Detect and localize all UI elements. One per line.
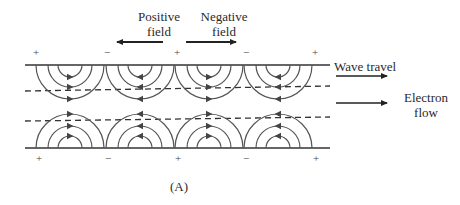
top-field-arc [175,65,243,99]
bottom-field-arc [197,136,221,148]
bottom-field-arc [244,114,312,148]
bottom-field-arc [58,136,82,148]
bottom-field-arc [128,136,152,148]
arc-arrow-icon [206,133,213,139]
top-sign: + [174,46,180,58]
electron-flow-label-line1: Electron [393,90,459,105]
bottom-field-arc [36,114,104,148]
negative-field-label-line2: field [185,24,263,39]
arc-arrow-icon [206,96,213,102]
electron-flow-label-line2: flow [393,105,459,120]
top-field-arc [266,65,290,77]
arc-arrow-icon [206,111,213,117]
bottom-sign: + [36,152,42,164]
arc-arrow-icon [137,111,144,117]
arc-arrow-icon [137,133,144,139]
arc-arrow-icon [275,74,282,80]
arc-arrow-icon [137,96,144,102]
bottom-field-arc [266,136,290,148]
arc-arrow-icon [206,74,213,80]
top-field-arc [58,65,82,77]
arc-arrow-icon [137,74,144,80]
bottom-sign: + [175,152,181,164]
field-arcs [36,65,312,148]
electron-flow-label: Electron flow [393,90,459,120]
top-field-arc [36,65,104,99]
arc-arrow-icon [67,74,74,80]
figure-caption: (A) [170,179,188,194]
bottom-sign: − [243,152,249,164]
top-field-arc [106,65,174,99]
top-sign: + [312,46,318,58]
lower-dashed-line [25,117,330,121]
arc-arrow-icon [275,111,282,117]
top-field-arc [128,65,152,77]
top-sign: − [243,46,249,58]
arc-arrow-icon [67,96,74,102]
arc-arrow-icon [275,96,282,102]
top-sign: − [104,46,110,58]
bottom-sign: + [313,152,319,164]
top-field-arc [197,65,221,77]
arc-arrow-icon [275,84,282,90]
arc-arrow-icon [67,84,74,90]
arc-arrow-icon [275,123,282,129]
arc-arrow-icon [67,111,74,117]
negative-field-label: Negative field [185,9,263,39]
wave-travel-label: Wave travel [334,59,396,74]
arc-arrow-icon [67,133,74,139]
top-sign: + [33,46,39,58]
arc-arrow-icon [206,123,213,129]
arc-arrow-icon [67,123,74,129]
arc-arrow-icon [275,133,282,139]
arc-arrow-icon [137,123,144,129]
bottom-sign: − [105,152,111,164]
top-field-arc [244,65,312,99]
arc-arrow-icon [206,84,213,90]
negative-field-label-line1: Negative [185,9,263,24]
